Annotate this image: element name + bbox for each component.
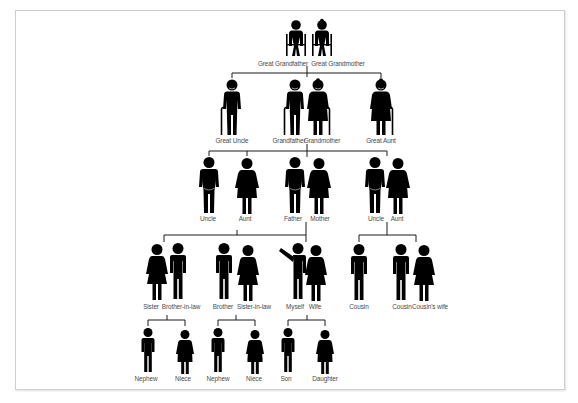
label-cousin: Cousin <box>349 303 368 310</box>
great-uncle-icon <box>222 80 242 136</box>
connector-gen3-b <box>218 315 255 326</box>
connector-gen3-c <box>288 315 325 326</box>
label-brother: Brother <box>213 303 233 310</box>
label-aunt: Aunt <box>239 215 252 222</box>
aunt-icon <box>235 158 259 214</box>
nephew-icon <box>142 328 155 372</box>
myself-icon <box>279 243 306 299</box>
uncle-icon <box>365 157 385 213</box>
brother-icon <box>216 243 232 299</box>
label-cousins-wife: Cousin's wife <box>412 303 448 310</box>
great-aunt-icon <box>370 78 393 135</box>
label-daughter: Daughter <box>312 375 338 382</box>
label-grandmother: Grandmother <box>304 137 341 144</box>
cousin-icon <box>393 244 409 300</box>
daughter-icon <box>316 330 334 374</box>
label-grandfather: Grandfather <box>272 137 305 144</box>
label-aunt: Aunt <box>391 215 404 222</box>
mother-icon <box>307 158 331 214</box>
cousins-wife-icon <box>413 245 435 301</box>
label-sister-in-law: Sister-in-law <box>237 303 271 310</box>
label-uncle: Uncle <box>368 215 384 222</box>
sister-in-law-icon <box>237 245 259 301</box>
label-nephew: Nephew <box>207 375 230 382</box>
label-great-grandfather: Great Grandfather <box>258 60 308 67</box>
label-niece: Niece <box>175 375 191 382</box>
label-son: Son <box>280 375 291 382</box>
brother-in-law-icon <box>170 243 186 299</box>
label-myself: Myself <box>286 303 304 310</box>
label-sister: Sister <box>143 303 159 310</box>
aunt-icon <box>386 158 410 214</box>
father-icon <box>285 157 305 213</box>
cousin-icon <box>351 244 367 300</box>
label-father: Father <box>284 215 302 222</box>
grandmother-icon <box>307 78 330 135</box>
label-mother: Mother <box>310 215 329 222</box>
niece-icon <box>176 330 194 374</box>
grandfather-icon <box>285 80 305 136</box>
label-wife: Wife <box>309 303 321 310</box>
connector-gen2-right <box>359 222 416 242</box>
label-uncle: Uncle <box>200 215 216 222</box>
uncle-icon <box>199 157 219 213</box>
label-great-uncle: Great Uncle <box>216 137 249 144</box>
label-cousin: Cousin <box>392 303 411 310</box>
label-brother-in-law: Brother-in-law <box>162 303 200 310</box>
label-great-grandmother: Great Grandmother <box>311 60 365 67</box>
great-grandmother-icon <box>312 19 332 56</box>
connector-gen0 <box>232 66 381 78</box>
great-grandfather-icon <box>286 20 306 56</box>
label-niece: Niece <box>246 375 262 382</box>
sister-icon <box>146 244 168 300</box>
wife-icon <box>305 245 327 301</box>
connector-gen1 <box>209 144 387 157</box>
connector-gen3-a <box>148 315 185 326</box>
niece-icon <box>246 330 264 374</box>
label-nephew: Nephew <box>135 375 158 382</box>
son-icon <box>282 328 295 372</box>
nephew-icon <box>212 328 225 372</box>
label-great-aunt: Great Aunt <box>366 137 396 144</box>
connector-gen2-left <box>164 222 306 242</box>
